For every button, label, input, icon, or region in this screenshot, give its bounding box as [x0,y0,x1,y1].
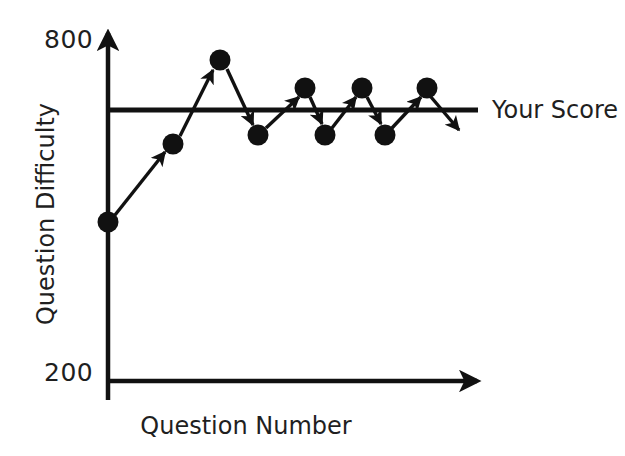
data-point [248,125,269,146]
data-point [375,125,396,146]
your-score-label: Your Score [492,96,618,124]
data-point [295,78,316,99]
data-point [98,212,119,233]
y-axis-title: Question Difficulty [32,64,60,364]
chart-figure: 800 200 Question Difficulty Question Num… [0,0,625,456]
chart-canvas [0,0,625,456]
connector-segment [115,152,165,215]
data-point [315,125,336,146]
connector-segment [227,69,253,125]
data-point [417,78,438,99]
data-point [210,50,231,71]
connector-trailing-arrow [431,97,459,130]
x-axis-title: Question Number [0,412,492,440]
y-axis-tick-label-top: 800 [44,25,93,54]
series-data-points [98,50,438,233]
connector-segment [180,70,213,136]
data-point [163,134,184,155]
data-point [352,78,373,99]
